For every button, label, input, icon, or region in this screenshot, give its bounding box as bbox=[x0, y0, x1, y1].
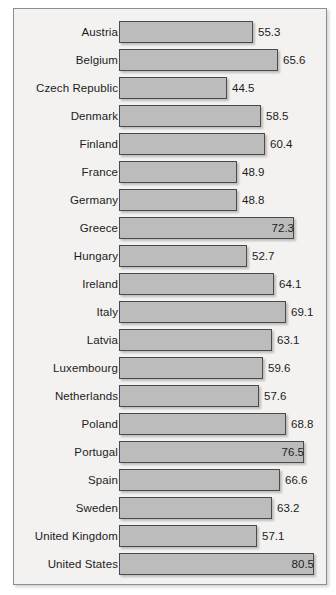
bar-row: Greece72.3 bbox=[14, 217, 326, 239]
bar-row: France48.9 bbox=[14, 161, 326, 183]
bar-value-label: 65.6 bbox=[278, 49, 305, 71]
bar-row: Spain66.6 bbox=[14, 469, 326, 491]
bar-category-label: Germany bbox=[70, 189, 118, 211]
bar-track: 68.8 bbox=[119, 413, 326, 435]
bar-category-label: Poland bbox=[82, 413, 118, 435]
bar-value-label: 63.2 bbox=[272, 497, 299, 519]
bar-category-label: Netherlands bbox=[55, 385, 118, 407]
bar bbox=[119, 49, 278, 71]
bar-track: 72.3 bbox=[119, 217, 326, 239]
bar-value-label: 57.1 bbox=[257, 525, 284, 547]
bar-row: Latvia63.1 bbox=[14, 329, 326, 351]
bar-row: Portugal76.5 bbox=[14, 441, 326, 463]
bar-value-label: 68.8 bbox=[286, 413, 313, 435]
bar bbox=[119, 245, 247, 267]
bar-value-label: 48.9 bbox=[237, 161, 264, 183]
bar-row: Hungary52.7 bbox=[14, 245, 326, 267]
bar-row: Germany48.8 bbox=[14, 189, 326, 211]
bar-track: 48.9 bbox=[119, 161, 326, 183]
bar-track: 64.1 bbox=[119, 273, 326, 295]
bar-track: 48.8 bbox=[119, 189, 326, 211]
bar-track: 65.6 bbox=[119, 49, 326, 71]
bar bbox=[119, 133, 265, 155]
bar bbox=[119, 21, 253, 43]
bar-row: United States80.5 bbox=[14, 553, 326, 575]
bar-track: 80.5 bbox=[119, 553, 326, 575]
bar-row: Italy69.1 bbox=[14, 301, 326, 323]
bar-category-label: Finland bbox=[80, 133, 118, 155]
bar-track: 57.6 bbox=[119, 385, 326, 407]
bar-row: Czech Republic44.5 bbox=[14, 77, 326, 99]
bar bbox=[119, 77, 227, 99]
bar-category-label: Denmark bbox=[71, 105, 118, 127]
bar-row: Ireland64.1 bbox=[14, 273, 326, 295]
bar-track: 66.6 bbox=[119, 469, 326, 491]
bar-category-label: Latvia bbox=[87, 329, 118, 351]
bar-category-label: Hungary bbox=[74, 245, 118, 267]
bar-value-label: 80.5 bbox=[119, 553, 320, 575]
bar-value-label: 66.6 bbox=[280, 469, 307, 491]
bar bbox=[119, 357, 263, 379]
bar-value-label: 72.3 bbox=[119, 217, 300, 239]
bar-row: Austria55.3 bbox=[14, 21, 326, 43]
bar-track: 55.3 bbox=[119, 21, 326, 43]
bar-value-label: 52.7 bbox=[247, 245, 274, 267]
bar-category-label: Austria bbox=[82, 21, 119, 43]
bar-value-label: 63.1 bbox=[272, 329, 299, 351]
bar-category-label: Spain bbox=[88, 469, 118, 491]
bar bbox=[119, 273, 274, 295]
bar-track: 59.6 bbox=[119, 357, 326, 379]
bar-category-label: Greece bbox=[80, 217, 118, 239]
bar-track: 52.7 bbox=[119, 245, 326, 267]
bar-row: Netherlands57.6 bbox=[14, 385, 326, 407]
bar-track: 57.1 bbox=[119, 525, 326, 547]
bar bbox=[119, 497, 272, 519]
bar-category-label: Czech Republic bbox=[36, 77, 118, 99]
bar-track: 63.2 bbox=[119, 497, 326, 519]
bar-category-label: Sweden bbox=[76, 497, 118, 519]
bar-value-label: 44.5 bbox=[227, 77, 254, 99]
bar-row: Belgium65.6 bbox=[14, 49, 326, 71]
bar-category-label: Italy bbox=[96, 301, 118, 323]
bar bbox=[119, 469, 280, 491]
bar-track: 76.5 bbox=[119, 441, 326, 463]
bar-category-label: Luxembourg bbox=[53, 357, 118, 379]
bar-category-label: United Kingdom bbox=[35, 525, 118, 547]
bar-category-label: Portugal bbox=[74, 441, 118, 463]
bar-value-label: 76.5 bbox=[119, 441, 310, 463]
bar-row: Luxembourg59.6 bbox=[14, 357, 326, 379]
bar-row: Finland60.4 bbox=[14, 133, 326, 155]
bar-track: 69.1 bbox=[119, 301, 326, 323]
bar-value-label: 48.8 bbox=[237, 189, 264, 211]
bar bbox=[119, 105, 261, 127]
bar-category-label: France bbox=[82, 161, 118, 183]
bar bbox=[119, 189, 237, 211]
bar-row: Sweden63.2 bbox=[14, 497, 326, 519]
bar-category-label: Ireland bbox=[82, 273, 118, 295]
bar bbox=[119, 385, 259, 407]
bar-category-label: United States bbox=[48, 553, 118, 575]
bar-row: Denmark58.5 bbox=[14, 105, 326, 127]
chart-frame: Austria55.3Belgium65.6Czech Republic44.5… bbox=[13, 8, 327, 585]
bar bbox=[119, 161, 237, 183]
bar-track: 44.5 bbox=[119, 77, 326, 99]
bar-value-label: 57.6 bbox=[259, 385, 286, 407]
bar-row: United Kingdom57.1 bbox=[14, 525, 326, 547]
bar-value-label: 59.6 bbox=[263, 357, 290, 379]
bar-track: 60.4 bbox=[119, 133, 326, 155]
bar-track: 58.5 bbox=[119, 105, 326, 127]
bar bbox=[119, 525, 257, 547]
bar-row: Poland68.8 bbox=[14, 413, 326, 435]
bar-chart-plot-area: Austria55.3Belgium65.6Czech Republic44.5… bbox=[14, 9, 326, 584]
bar bbox=[119, 329, 272, 351]
bar bbox=[119, 301, 286, 323]
bar bbox=[119, 413, 286, 435]
bar-value-label: 69.1 bbox=[286, 301, 313, 323]
bar-value-label: 60.4 bbox=[265, 133, 292, 155]
bar-track: 63.1 bbox=[119, 329, 326, 351]
bar-category-label: Belgium bbox=[76, 49, 118, 71]
bar-value-label: 64.1 bbox=[274, 273, 301, 295]
bar-value-label: 55.3 bbox=[253, 21, 280, 43]
bar-value-label: 58.5 bbox=[261, 105, 288, 127]
